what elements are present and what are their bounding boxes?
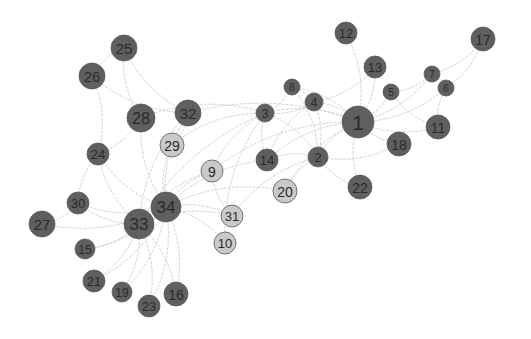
node-label: 3 — [262, 107, 269, 121]
node-label: 16 — [168, 287, 184, 303]
node-18[interactable]: 18 — [387, 132, 411, 156]
node-label: 2 — [314, 150, 321, 165]
node-label: 32 — [180, 105, 197, 122]
node-label: 1 — [352, 111, 364, 134]
node-label: 22 — [352, 180, 368, 196]
node-3[interactable]: 3 — [256, 104, 274, 122]
node-25[interactable]: 25 — [111, 35, 137, 61]
node-21[interactable]: 21 — [83, 270, 105, 292]
node-14[interactable]: 14 — [256, 149, 278, 171]
node-26[interactable]: 26 — [79, 63, 105, 89]
node-13[interactable]: 13 — [364, 56, 386, 78]
node-34[interactable]: 34 — [151, 192, 181, 222]
node-label: 29 — [164, 138, 180, 154]
node-31[interactable]: 31 — [221, 205, 243, 227]
node-6[interactable]: 6 — [438, 80, 454, 96]
node-label: 18 — [391, 137, 407, 153]
node-label: 8 — [289, 82, 295, 93]
node-label: 23 — [142, 299, 156, 314]
node-label: 33 — [130, 215, 149, 234]
node-label: 7 — [429, 69, 435, 80]
node-label: 6 — [443, 83, 449, 94]
node-label: 34 — [157, 198, 176, 217]
node-label: 27 — [34, 216, 51, 233]
node-16[interactable]: 16 — [164, 282, 188, 306]
node-32[interactable]: 32 — [175, 100, 201, 126]
node-label: 21 — [87, 274, 101, 289]
node-label: 19 — [115, 286, 129, 300]
node-label: 15 — [78, 243, 92, 257]
node-label: 17 — [475, 32, 491, 48]
network-graph: 1234567891011121314151617181920212223242… — [0, 0, 531, 339]
node-label: 26 — [84, 68, 101, 85]
node-30[interactable]: 30 — [67, 192, 89, 214]
node-10[interactable]: 10 — [214, 232, 236, 254]
node-label: 4 — [311, 96, 318, 110]
node-9[interactable]: 9 — [201, 160, 223, 182]
node-20[interactable]: 20 — [273, 179, 297, 203]
node-label: 12 — [339, 26, 353, 41]
node-33[interactable]: 33 — [124, 209, 154, 239]
node-8[interactable]: 8 — [284, 79, 300, 95]
node-23[interactable]: 23 — [138, 295, 160, 317]
node-label: 31 — [225, 209, 239, 224]
node-15[interactable]: 15 — [75, 239, 95, 259]
node-label: 10 — [218, 236, 232, 251]
node-2[interactable]: 2 — [308, 147, 328, 167]
node-12[interactable]: 12 — [335, 22, 357, 44]
edge-20-34 — [166, 187, 285, 207]
node-22[interactable]: 22 — [348, 175, 372, 199]
node-24[interactable]: 24 — [87, 143, 109, 165]
edge-1-9 — [212, 122, 358, 171]
edge-25-32 — [124, 48, 188, 113]
node-label: 14 — [260, 153, 274, 168]
node-label: 20 — [277, 184, 293, 200]
node-label: 25 — [116, 40, 133, 57]
node-19[interactable]: 19 — [112, 282, 132, 302]
node-1[interactable]: 1 — [342, 106, 374, 138]
node-28[interactable]: 28 — [127, 104, 155, 132]
node-7[interactable]: 7 — [424, 66, 440, 82]
node-17[interactable]: 17 — [471, 27, 495, 51]
node-label: 13 — [368, 60, 382, 75]
node-5[interactable]: 5 — [383, 84, 399, 100]
node-label: 11 — [431, 120, 446, 136]
node-27[interactable]: 27 — [29, 211, 55, 237]
node-label: 24 — [91, 147, 105, 162]
node-label: 28 — [132, 110, 150, 127]
node-label: 30 — [71, 196, 85, 211]
node-29[interactable]: 29 — [160, 133, 184, 157]
node-label: 9 — [208, 164, 216, 180]
node-label: 5 — [388, 87, 394, 98]
node-4[interactable]: 4 — [305, 93, 323, 111]
edge-3-28 — [141, 104, 265, 118]
node-11[interactable]: 11 — [426, 115, 450, 139]
node-layer: 1234567891011121314151617181920212223242… — [29, 22, 495, 317]
